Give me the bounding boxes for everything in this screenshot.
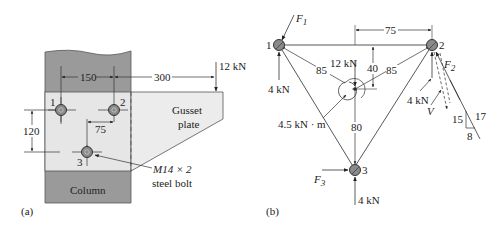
- node-3-load: 4 kN: [358, 194, 380, 206]
- force-v: V: [427, 105, 435, 117]
- force-f3: F3: [313, 173, 326, 188]
- dim-80: 80: [351, 121, 363, 133]
- figure-b: 12 kN 40 75 85 85 80 4.5 kN · m 1 F1 4 k: [266, 12, 487, 218]
- dim-85-right: 85: [386, 64, 398, 76]
- gusset-label-2: plate: [178, 118, 199, 130]
- dim-120: 120: [23, 125, 40, 137]
- bolt-2-label: 2: [120, 96, 126, 108]
- dim-85-left: 85: [316, 64, 328, 76]
- dim-300: 300: [154, 71, 171, 83]
- node-2-label: 2: [439, 39, 445, 51]
- node-1-label: 1: [266, 39, 272, 51]
- plate-on-column: [45, 92, 131, 171]
- force-f2: F2: [443, 58, 456, 73]
- dim-75-b: 75: [385, 24, 397, 36]
- moment-arc: [339, 82, 357, 100]
- bolt-3-label: 3: [77, 156, 83, 168]
- caption-b: (b): [266, 205, 279, 218]
- node-1: 1: [266, 39, 285, 51]
- dim-40: 40: [367, 62, 379, 74]
- load-12kn: 12 kN: [219, 60, 246, 72]
- node-1-load: 4 kN: [268, 83, 290, 95]
- moment-label: 4.5 kN · m: [278, 118, 326, 130]
- dim-75: 75: [95, 123, 107, 135]
- dim-150: 150: [80, 71, 97, 83]
- bolt-spec: M14 × 2: [152, 163, 192, 175]
- column-label: Column: [70, 184, 106, 196]
- gusset-label: Gusset: [172, 104, 202, 116]
- bolt-1-label: 1: [50, 96, 56, 108]
- bolt-spec-2: steel bolt: [152, 177, 192, 189]
- slope-rise: 15: [452, 113, 464, 125]
- node-3: 3: [350, 164, 369, 176]
- node-3-label: 3: [362, 164, 368, 176]
- caption-a: (a): [21, 205, 34, 218]
- force-f1: F1: [295, 12, 307, 27]
- node-2-load: 4 kN: [407, 94, 429, 106]
- figure-a: 150 300 12 kN 120 75 1 2: [21, 50, 246, 218]
- slope-run: 8: [467, 130, 473, 142]
- load-center-12kn: 12 kN: [330, 57, 357, 69]
- node-2: 2: [427, 39, 445, 51]
- slope-hyp: 17: [475, 110, 487, 122]
